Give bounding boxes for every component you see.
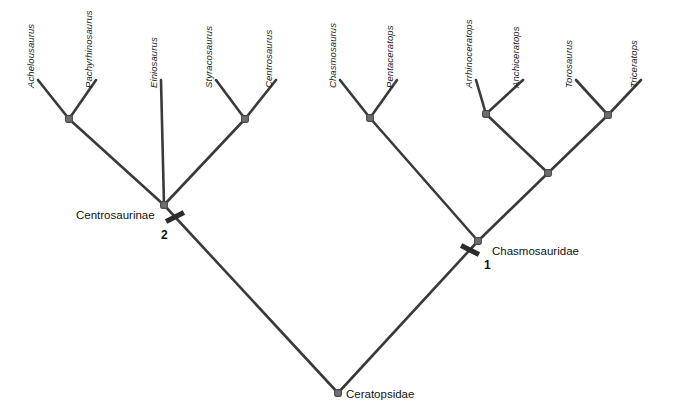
clade-label-ceratopsidae: Ceratopsidae <box>346 388 414 400</box>
taxon-label-pentaceratops: Pentaceratops <box>384 25 395 88</box>
tree-node <box>66 116 73 123</box>
taxon-label-chasmosaurus: Chasmosaurus <box>327 23 338 88</box>
branch-layer <box>38 80 641 393</box>
tree-node <box>367 115 374 122</box>
tree-branch <box>164 119 245 205</box>
taxon-label-arrhinoceratops: Arrhinoceratops <box>463 19 474 88</box>
character-tick-1 <box>460 243 480 257</box>
tree-branch <box>548 115 608 173</box>
tree-branch <box>161 80 164 205</box>
taxon-label-torosaurus: Torosaurus <box>563 40 574 88</box>
tree-branch <box>340 80 370 118</box>
tree-node <box>545 170 552 177</box>
tree-node <box>242 116 249 123</box>
taxon-label-pachyrhinosaurus: Pachyrhinosaurus <box>83 10 94 88</box>
tree-branch <box>338 241 478 393</box>
tree-node <box>161 202 168 209</box>
tree-node <box>475 238 482 245</box>
taxon-label-anchiceratops: Anchiceratops <box>510 26 521 88</box>
clade-label-chasmosauridae: Chasmosauridae <box>492 245 579 257</box>
taxon-label-achelousaurus: Achelousaurus <box>25 24 36 88</box>
character-tick-layer <box>165 210 480 257</box>
tree-branch <box>486 114 548 173</box>
tree-node <box>483 111 490 118</box>
tree-branch <box>164 205 338 393</box>
clade-label-centrosaurinae: Centrosaurinae <box>76 209 155 221</box>
tree-node <box>605 112 612 119</box>
taxon-label-triceratops: Triceratops <box>628 40 639 88</box>
tree-branch <box>476 80 486 114</box>
character-number-2: 2 <box>161 228 168 242</box>
tree-branch <box>576 80 608 115</box>
tree-branch <box>216 80 245 119</box>
taxon-label-centrosaurus: Centrosaurus <box>263 30 274 88</box>
taxon-label-einiosaurus: Einiosaurus <box>148 37 159 88</box>
character-number-1: 1 <box>484 258 491 272</box>
tree-branch <box>38 80 69 119</box>
character-tick-2 <box>165 210 185 224</box>
taxon-label-styracosaurus: Styracosaurus <box>203 26 214 88</box>
tree-branch <box>478 173 548 241</box>
tree-node <box>335 390 342 397</box>
tree-branch <box>69 119 164 205</box>
tree-branch <box>370 118 478 241</box>
